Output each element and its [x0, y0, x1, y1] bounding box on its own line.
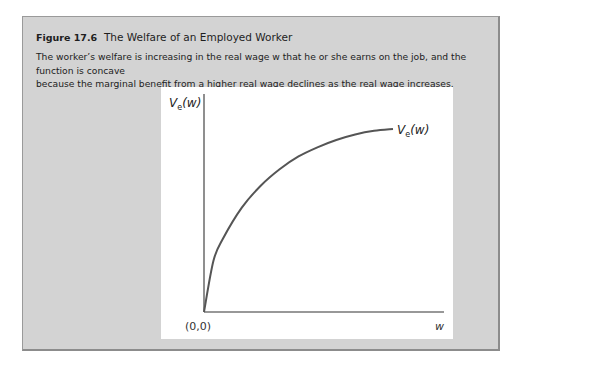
figure-title: Figure 17.6 The Welfare of an Employed W…: [36, 31, 292, 43]
figure-number: Figure 17.6: [36, 32, 97, 43]
curve-label: Ve(w): [397, 123, 429, 139]
caption-line-1: The worker’s welfare is increasing in th…: [36, 50, 496, 77]
figure-caption: The worker’s welfare is increasing in th…: [36, 50, 496, 91]
chart-svg: Ve(w) Ve(w) (0,0) w: [161, 87, 453, 339]
y-axis-label: Ve(w): [169, 96, 201, 112]
ve-curve: [204, 129, 393, 312]
figure-panel: Figure 17.6 The Welfare of an Employed W…: [22, 16, 500, 351]
x-axis-label: w: [435, 320, 444, 333]
figure-title-text: The Welfare of an Employed Worker: [104, 31, 292, 43]
origin-label: (0,0): [185, 320, 211, 333]
chart-area: Ve(w) Ve(w) (0,0) w: [161, 87, 453, 339]
